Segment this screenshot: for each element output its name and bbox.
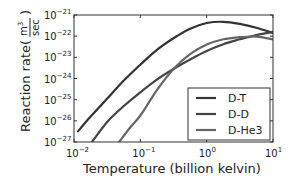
y-axis-unit: ( m3 sec ) xyxy=(17,10,41,45)
y-tick-label: 10−21 xyxy=(44,8,72,21)
x-tick-label: 101 xyxy=(265,146,282,159)
legend-label-d-he3: D-He3 xyxy=(228,124,262,137)
svg-text:sec: sec xyxy=(30,19,41,36)
x-tick-label: 10−2 xyxy=(66,146,89,159)
svg-text:(: ( xyxy=(18,40,33,45)
y-axis-label: Reaction rate ( m3 sec ) xyxy=(17,10,41,132)
y-tick-label: 10−27 xyxy=(44,135,72,148)
y-tick-label: 10−22 xyxy=(44,29,72,42)
x-axis-title: Temperature (billion kelvin) xyxy=(82,161,261,176)
svg-text:m3: m3 xyxy=(17,22,29,36)
y-tick-label: 10−26 xyxy=(44,114,72,127)
legend-label-d-t: D-T xyxy=(228,92,246,105)
x-tick-label: 100 xyxy=(199,146,216,159)
x-tick-label: 10−1 xyxy=(132,146,155,159)
legend: D-TD-DD-He3 xyxy=(188,88,270,140)
y-axis-title: Reaction rate xyxy=(18,45,33,132)
y-tick-label: 10−25 xyxy=(44,93,72,106)
y-tick-label: 10−24 xyxy=(44,72,72,85)
reaction-rate-chart: Reaction rate ( m3 sec ) 10−2110−2210−23… xyxy=(0,0,289,188)
y-tick-label: 10−23 xyxy=(44,50,72,63)
svg-text:): ) xyxy=(18,10,33,15)
legend-label-d-d: D-D xyxy=(228,108,249,121)
